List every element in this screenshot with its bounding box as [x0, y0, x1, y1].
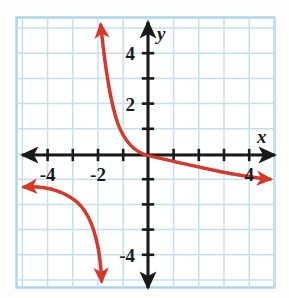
y-axis-label: y	[155, 23, 166, 44]
x-tick-label-minus-4: -4	[40, 164, 56, 185]
y-tick-label-4: 4	[126, 43, 136, 64]
x-axis-label: x	[256, 126, 267, 147]
graph-figure: -4 -2 4 4 2 -4 y x	[0, 0, 289, 298]
y-tick-label-minus-4: -4	[119, 245, 135, 266]
x-tick-label-minus-2: -2	[90, 164, 106, 185]
x-tick-label-4: 4	[244, 164, 254, 185]
coordinate-plane-svg: -4 -2 4 4 2 -4 y x	[0, 0, 289, 298]
plot-frame	[17, 18, 275, 288]
y-tick-label-2: 2	[126, 94, 136, 115]
